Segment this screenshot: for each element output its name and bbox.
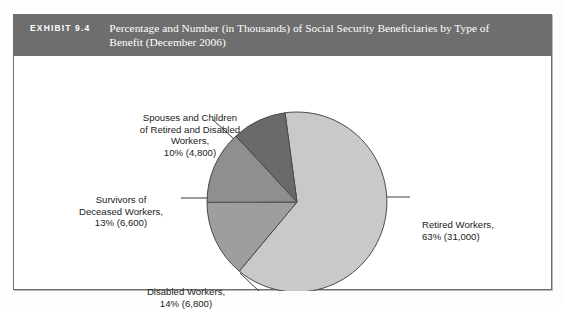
exhibit-header: EXHIBIT 9.4 Percentage and Number (in Th… [14,15,551,56]
exhibit-number: EXHIBIT 9.4 [30,22,90,33]
callout-retired-workers: Retired Workers, 63% (31,000) [422,219,554,242]
pie-chart: Spouses and Children of Retired and Disa… [14,56,551,289]
callout-disabled-workers: Disabled Workers, 14% (6,800) [110,286,262,309]
exhibit-frame: EXHIBIT 9.4 Percentage and Number (in Th… [13,14,552,290]
callout-survivors: Survivors of Deceased Workers, 13% (6,60… [42,194,200,229]
callout-spouses-children: Spouses and Children of Retired and Disa… [100,112,280,158]
pie-chart-svg [14,56,553,291]
exhibit-title: Percentage and Number (in Thousands) of … [109,22,509,49]
